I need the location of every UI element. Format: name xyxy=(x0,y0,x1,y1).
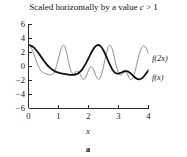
series-annotations-group: f(2x)f(x) xyxy=(152,54,168,83)
series-label: f(x) xyxy=(152,73,164,82)
x-tick-label: 4 xyxy=(146,111,151,121)
y-tick-label: −6 xyxy=(16,103,26,113)
x-axis-label: x xyxy=(85,126,90,136)
y-tick-label: 2 xyxy=(21,47,25,57)
figure-caption: a xyxy=(86,144,91,154)
x-tick-label: 2 xyxy=(86,111,90,121)
y-tick-label: −2 xyxy=(16,75,25,85)
plot-svg: 6420−2−4−6 01234 f(2x)f(x) x a xyxy=(0,0,187,157)
curve-f2x xyxy=(29,45,149,80)
axes-group xyxy=(29,24,149,108)
y-tick-label: −4 xyxy=(16,89,26,99)
y-tick-label: 0 xyxy=(21,61,25,71)
x-tick-label: 1 xyxy=(56,111,60,121)
x-tick-label: 3 xyxy=(116,111,120,121)
y-tick-label: 4 xyxy=(21,33,26,43)
y-tick-label: 6 xyxy=(21,19,26,29)
tick-marks-group xyxy=(29,24,149,108)
y-axis-tick-labels: 6420−2−4−6 xyxy=(16,19,26,113)
series-label: f(2x) xyxy=(152,54,168,63)
data-curves-group xyxy=(29,45,149,80)
x-axis-tick-labels: 01234 xyxy=(26,111,151,121)
figure-container: Scaled horizontally by a value c > 1 642… xyxy=(0,0,187,157)
x-tick-label: 0 xyxy=(26,111,30,121)
